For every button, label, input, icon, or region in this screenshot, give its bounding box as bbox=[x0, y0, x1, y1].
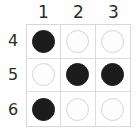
grid-cell[interactable] bbox=[61, 59, 95, 93]
row-label-column: 4 5 6 bbox=[0, 24, 26, 127]
open-disc-icon bbox=[66, 98, 89, 121]
open-disc-icon bbox=[101, 30, 124, 53]
column-header-row: 1 2 3 bbox=[26, 0, 131, 24]
grid-cell[interactable] bbox=[61, 25, 95, 59]
filled-disc-icon bbox=[32, 98, 55, 121]
column-header-3: 3 bbox=[96, 0, 131, 24]
grid-cell[interactable] bbox=[27, 25, 61, 59]
open-disc-icon bbox=[32, 63, 55, 86]
disc-grid-widget: 1 2 3 4 5 6 bbox=[0, 0, 138, 138]
grid-cell[interactable] bbox=[96, 92, 130, 126]
grid-cell[interactable] bbox=[96, 25, 130, 59]
grid-cell[interactable] bbox=[27, 92, 61, 126]
row-label-4: 4 bbox=[0, 24, 26, 58]
grid-cell[interactable] bbox=[27, 59, 61, 93]
filled-disc-icon bbox=[101, 63, 124, 86]
column-header-1: 1 bbox=[26, 0, 61, 24]
disc-grid bbox=[26, 24, 131, 127]
row-label-6: 6 bbox=[0, 93, 26, 127]
open-disc-icon bbox=[66, 30, 89, 53]
grid-cell[interactable] bbox=[61, 92, 95, 126]
filled-disc-icon bbox=[66, 63, 89, 86]
column-header-2: 2 bbox=[61, 0, 96, 24]
grid-cell[interactable] bbox=[96, 59, 130, 93]
filled-disc-icon bbox=[32, 30, 55, 53]
open-disc-icon bbox=[101, 98, 124, 121]
row-label-5: 5 bbox=[0, 58, 26, 92]
